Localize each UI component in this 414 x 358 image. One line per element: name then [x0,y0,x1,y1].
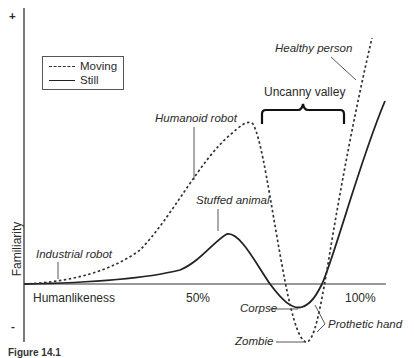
annotation-corpse: Corpse [240,302,277,314]
annotation-prothetic-hand: Prothetic hand [328,318,402,330]
leader-healthy-person [331,57,356,80]
annotation-uncanny-valley: Uncanny valley [264,85,345,99]
legend-label-still: Still [80,74,99,86]
y-minus-marker: - [11,320,15,332]
y-axis-label: Familiarity [10,214,24,284]
figure-caption: Figure 14.1 [8,347,61,358]
annotation-zombie: Zombie [235,335,273,347]
solid-line-swatch-icon [49,80,75,81]
legend-item-still: Still [49,73,99,87]
annotation-healthy-person: Healthy person [275,42,352,54]
y-plus-marker: + [9,10,16,22]
legend-item-moving: Moving [49,59,117,73]
annotation-humanoid-robot: Humanoid robot [155,112,237,124]
uncanny-valley-brace [262,104,344,124]
annotation-stuffed-animal: Stuffed animal [196,194,270,206]
legend: Moving Still [42,56,124,90]
leader-prothetic-hand [315,305,325,332]
dashed-line-swatch-icon [49,66,75,67]
x-axis-label: Humanlikeness [33,291,115,305]
annotation-industrial-robot: Industrial robot [36,248,112,260]
x-tick-100: 100% [345,291,376,305]
legend-label-moving: Moving [80,60,117,72]
x-tick-50: 50% [186,291,210,305]
